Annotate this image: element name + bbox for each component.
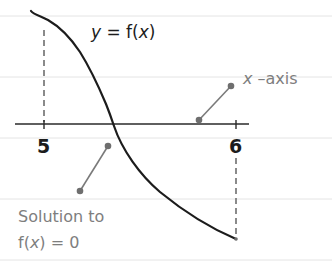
x-axis-leader-dot-top bbox=[228, 83, 235, 90]
tick-label-6: 6 bbox=[229, 135, 242, 157]
diagram-canvas: y = f(x) x –axis 5 6 Solution to f(x) = … bbox=[0, 0, 332, 271]
solution-leader bbox=[80, 146, 108, 191]
function-label: y = f(x) bbox=[90, 22, 155, 42]
solution-note-line1: Solution to bbox=[18, 207, 104, 226]
tick-label-5: 5 bbox=[37, 135, 50, 157]
x-axis-label: x –axis bbox=[242, 69, 298, 88]
solution-leader-dot-bottom bbox=[77, 188, 84, 195]
solution-leader-dot-top bbox=[105, 143, 112, 150]
x-axis-leader bbox=[199, 86, 231, 120]
x-axis-leader-dot-bottom bbox=[196, 117, 203, 124]
curve-endpoint bbox=[234, 237, 238, 241]
solution-note-line2: f(x) = 0 bbox=[18, 233, 79, 252]
function-curve bbox=[31, 11, 236, 239]
